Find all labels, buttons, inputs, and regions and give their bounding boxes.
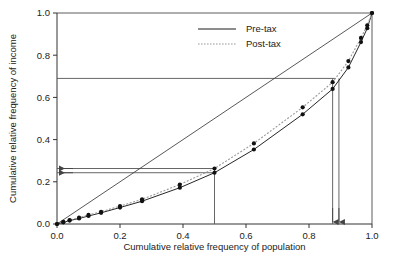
x-tick-label: 0.4 <box>176 230 189 241</box>
y-axis-ticks <box>53 13 57 224</box>
y-tick-label: 0.2 <box>37 176 50 187</box>
chart-canvas: 0.00.20.40.60.81.0 0.00.20.40.60.81.0 Pr… <box>0 0 399 270</box>
y-axis-title: Cumulative relative frequency of income <box>7 34 18 203</box>
legend-label: Pre-tax <box>246 23 277 34</box>
data-point-marker <box>365 23 369 27</box>
x-tick-label: 0.8 <box>302 230 315 241</box>
data-point-marker <box>252 147 256 151</box>
data-point-marker <box>212 171 216 175</box>
legend-label: Post-tax <box>246 38 281 49</box>
data-point-marker <box>61 220 65 224</box>
data-point-marker <box>346 65 350 69</box>
data-point-marker <box>301 105 305 109</box>
x-tick-label: 1.0 <box>365 230 378 241</box>
x-tick-label: 0.0 <box>50 230 63 241</box>
x-axis-tick-labels: 0.00.20.40.60.81.0 <box>50 230 378 241</box>
data-point-marker <box>68 218 72 222</box>
x-axis-title: Cumulative relative frequency of populat… <box>123 241 305 252</box>
y-tick-label: 0.0 <box>37 218 50 229</box>
data-point-marker <box>140 197 144 201</box>
data-point-marker <box>178 182 182 186</box>
y-axis-tick-labels: 0.00.20.40.60.81.0 <box>37 7 50 229</box>
data-point-marker <box>55 222 59 226</box>
x-tick-label: 0.2 <box>113 230 126 241</box>
y-tick-label: 1.0 <box>37 7 50 18</box>
data-point-marker <box>118 204 122 208</box>
data-point-marker <box>346 59 350 63</box>
data-point-marker <box>331 80 335 84</box>
data-point-marker <box>359 40 363 44</box>
data-point-marker <box>77 216 81 220</box>
data-point-marker <box>301 112 305 116</box>
y-tick-label: 0.4 <box>37 134 50 145</box>
lorenz-curve-figure: 0.00.20.40.60.81.0 0.00.20.40.60.81.0 Pr… <box>0 0 399 270</box>
y-tick-label: 0.6 <box>37 92 50 103</box>
data-point-marker <box>99 210 103 214</box>
data-point-marker <box>252 141 256 145</box>
data-point-marker <box>370 11 374 15</box>
data-point-marker <box>212 166 216 170</box>
y-tick-label: 0.8 <box>37 50 50 61</box>
x-tick-label: 0.6 <box>239 230 252 241</box>
data-point-marker <box>331 87 335 91</box>
x-axis-ticks <box>57 224 372 228</box>
data-point-marker <box>86 213 90 217</box>
data-point-marker <box>359 36 363 40</box>
